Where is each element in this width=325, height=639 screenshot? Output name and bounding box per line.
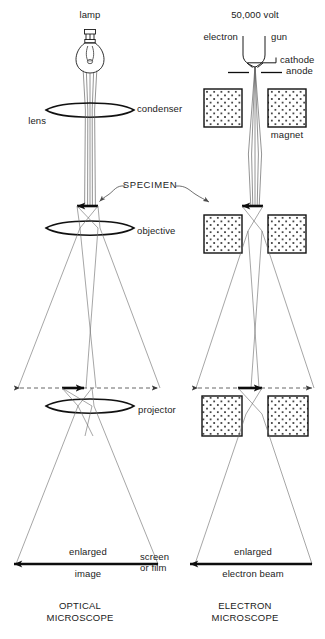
projector-label: projector	[138, 405, 176, 416]
lens-label: lens	[28, 116, 46, 127]
lamp-label: lamp	[80, 10, 101, 21]
electron-enlarged-label: enlarged	[234, 547, 272, 558]
electron-beam-rays-top	[248, 66, 261, 154]
optical-projector-lens	[46, 399, 134, 413]
electron-objective-magnet-right	[268, 215, 306, 253]
diagram-canvas	[0, 0, 325, 639]
electron-gun-right-label: gun	[271, 32, 287, 43]
optical-image-label: image	[75, 569, 101, 580]
optical-objective-lens	[46, 221, 134, 235]
electron-microscope-column	[190, 36, 314, 564]
specimen-label: SPECIMEN	[123, 180, 177, 191]
lamp-icon	[76, 30, 104, 74]
optical-caption-line1: OPTICAL	[59, 600, 101, 612]
optical-illumination-rays	[83, 71, 97, 111]
electron-condenser-magnet-right	[268, 89, 306, 127]
screen-label-line2: or film	[140, 563, 167, 574]
magnet-label: magnet	[271, 130, 303, 141]
condenser-label: condenser	[137, 104, 182, 115]
objective-label: objective	[137, 226, 175, 237]
electron-projector-magnet-right	[268, 396, 308, 436]
electron-beam-label: electron beam	[222, 569, 284, 580]
anode-label: anode	[286, 66, 313, 77]
microscope-comparison-figure: lamp lens enlarged image 50,000 volt ele…	[0, 0, 325, 639]
electron-gun-left-label: electron	[203, 32, 238, 43]
electron-projector-magnet-left	[202, 396, 242, 436]
optical-projector-rays	[16, 388, 158, 564]
electron-caption-line2: MICROSCOPE	[212, 612, 279, 624]
electron-condenser-to-specimen-rays	[248, 154, 261, 206]
optical-enlarged-label: enlarged	[69, 547, 107, 558]
electron-condenser-magnet-left	[204, 89, 242, 127]
electron-objective-magnet-left	[204, 215, 242, 253]
optical-condenser-to-specimen-rays	[85, 110, 96, 206]
voltage-label: 50,000 volt	[231, 10, 279, 21]
electron-caption-line1: ELECTRON	[218, 600, 271, 612]
optical-caption-line2: MICROSCOPE	[47, 612, 114, 624]
